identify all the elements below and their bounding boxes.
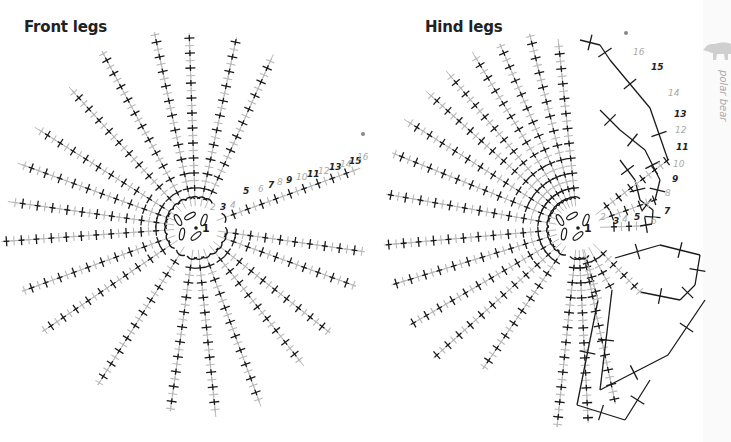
wedge-outline <box>599 110 666 220</box>
stitch-ray <box>481 246 566 369</box>
row-number: 8 <box>665 188 671 198</box>
stitch-ray <box>392 232 557 289</box>
row-number: 4 <box>622 214 628 224</box>
row-number: 13 <box>674 109 687 119</box>
row-number: 10 <box>673 159 685 169</box>
center-ring: 1 <box>555 211 592 242</box>
hind-legs-chart: 12345678910111213141516 <box>0 0 731 442</box>
row-number: 14 <box>668 88 680 98</box>
wedge-outline <box>589 247 705 390</box>
row-number: 9 <box>672 174 678 184</box>
stitch-ray <box>409 238 559 327</box>
end-marker <box>624 31 628 35</box>
row-number: 1 <box>584 222 592 235</box>
row-number: 12 <box>675 125 687 135</box>
row-number: 6 <box>651 216 657 226</box>
row-number: 15 <box>651 62 664 72</box>
row-number: 16 <box>633 47 645 57</box>
stitch-ray <box>384 226 556 250</box>
row-number: 11 <box>676 142 689 152</box>
row-number: 5 <box>634 212 640 222</box>
stitch-ray <box>392 150 557 222</box>
wedge-outline <box>593 242 705 304</box>
stitch-ray <box>426 91 562 213</box>
stitch-ray <box>446 71 564 211</box>
row-number: 3 <box>613 216 619 226</box>
stitch-ray <box>553 250 580 427</box>
row-number: 2 <box>600 212 606 222</box>
row-number: 7 <box>664 206 671 216</box>
